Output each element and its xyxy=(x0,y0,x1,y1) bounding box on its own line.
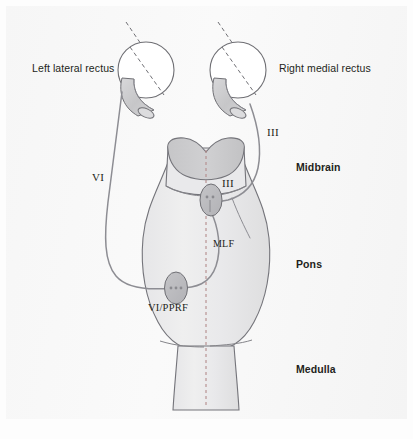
left-eye-axis-extension xyxy=(126,22,141,44)
label-region-midbrain: Midbrain xyxy=(296,162,341,173)
label-left-lateral-rectus: Left lateral rectus xyxy=(32,63,114,74)
label-nerve-three-fascicle: III xyxy=(267,127,279,138)
label-region-pons: Pons xyxy=(296,259,322,270)
label-oculomotor-nucleus: III xyxy=(222,178,234,189)
label-abducens-pprf-nucleus: VI/PPRF xyxy=(148,303,188,314)
abducens-pprf-nucleus xyxy=(165,272,188,304)
label-right-medial-rectus: Right medial rectus xyxy=(279,63,371,74)
oculomotor-nucleus xyxy=(200,184,222,216)
figure-root: Left lateral rectus Right medial rectus … xyxy=(0,0,413,439)
right-eye-axis-extension xyxy=(218,22,233,44)
label-region-medulla: Medulla xyxy=(296,364,336,375)
label-mlf: MLF xyxy=(213,239,234,249)
label-nerve-six: VI xyxy=(92,172,104,183)
